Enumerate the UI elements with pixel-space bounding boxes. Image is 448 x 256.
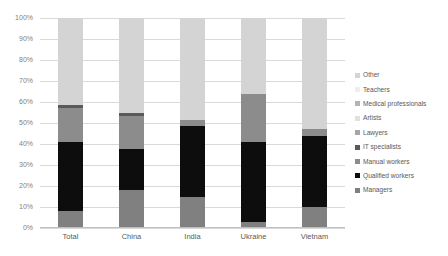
y-axis-tick-label: 10% bbox=[19, 203, 33, 211]
legend-item[interactable]: Artists bbox=[355, 111, 448, 125]
bar-segment[interactable] bbox=[58, 18, 82, 105]
bar-group[interactable] bbox=[302, 18, 326, 228]
bar-segment[interactable] bbox=[119, 116, 143, 150]
y-axis-labels: 0%10%20%30%40%50%60%70%80%90%100% bbox=[0, 18, 36, 228]
bar-segment[interactable] bbox=[302, 129, 326, 135]
legend-swatch-icon bbox=[355, 145, 360, 150]
legend-label: Artists bbox=[363, 114, 381, 122]
legend-item[interactable]: Medical professionals bbox=[355, 97, 448, 111]
legend-item[interactable]: Manual workers bbox=[355, 154, 448, 168]
y-axis-tick-label: 60% bbox=[19, 98, 33, 106]
x-axis-tick-label: Vietnam bbox=[301, 232, 328, 242]
x-axis-tick-label: Ukraine bbox=[241, 232, 267, 242]
bar-segment[interactable] bbox=[58, 142, 82, 211]
bars-layer bbox=[40, 18, 345, 228]
bar-group[interactable] bbox=[58, 18, 82, 228]
bar-segment[interactable] bbox=[241, 18, 265, 94]
legend-swatch-icon bbox=[355, 173, 360, 178]
bar-segment[interactable] bbox=[58, 108, 82, 142]
bar-stack bbox=[241, 18, 265, 228]
y-axis-tick-label: 50% bbox=[19, 119, 33, 127]
legend-label: Teachers bbox=[363, 86, 390, 94]
legend-swatch-icon bbox=[355, 130, 360, 135]
bar-stack bbox=[302, 18, 326, 228]
legend-item[interactable]: Qualified workers bbox=[355, 169, 448, 183]
bar-segment[interactable] bbox=[119, 113, 143, 116]
legend-swatch-icon bbox=[355, 188, 360, 193]
bar-stack bbox=[58, 18, 82, 228]
bar-stack bbox=[119, 18, 143, 228]
x-axis-line bbox=[40, 227, 345, 228]
x-axis-labels: TotalChinaIndiaUkraineVietnam bbox=[40, 232, 345, 248]
legend-swatch-icon bbox=[355, 87, 360, 92]
legend-label: Manual workers bbox=[363, 158, 410, 166]
y-axis-tick-label: 70% bbox=[19, 77, 33, 85]
bar-group[interactable] bbox=[119, 18, 143, 228]
legend-item[interactable]: Lawyers bbox=[355, 126, 448, 140]
x-axis-tick-label: China bbox=[122, 232, 142, 242]
bar-stack bbox=[180, 18, 204, 228]
y-axis-tick-label: 0% bbox=[23, 224, 33, 232]
legend-swatch-icon bbox=[355, 159, 360, 164]
legend-label: Managers bbox=[363, 186, 392, 194]
legend-item[interactable]: Teachers bbox=[355, 82, 448, 96]
legend-swatch-icon bbox=[355, 116, 360, 121]
legend-label: IT specialists bbox=[363, 143, 401, 151]
bar-segment[interactable] bbox=[180, 126, 204, 196]
bar-segment[interactable] bbox=[241, 142, 265, 222]
legend-item[interactable]: IT specialists bbox=[355, 140, 448, 154]
x-axis-tick-label: India bbox=[184, 232, 200, 242]
y-axis-tick-label: 20% bbox=[19, 182, 33, 190]
bar-segment[interactable] bbox=[58, 211, 82, 228]
bar-group[interactable] bbox=[180, 18, 204, 228]
x-axis-tick-label: Total bbox=[63, 232, 79, 242]
bar-segment[interactable] bbox=[119, 149, 143, 190]
bar-segment[interactable] bbox=[119, 190, 143, 228]
bar-segment[interactable] bbox=[180, 197, 204, 229]
stacked-bar-chart: 0%10%20%30%40%50%60%70%80%90%100% TotalC… bbox=[0, 0, 448, 256]
bar-segment[interactable] bbox=[241, 94, 265, 142]
bar-segment[interactable] bbox=[302, 136, 326, 207]
plot-area bbox=[40, 18, 345, 228]
gridline bbox=[40, 228, 345, 229]
legend-label: Other bbox=[363, 71, 380, 79]
bar-segment[interactable] bbox=[302, 18, 326, 129]
bar-segment[interactable] bbox=[119, 18, 143, 113]
legend-swatch-icon bbox=[355, 101, 360, 106]
bar-segment[interactable] bbox=[180, 120, 204, 126]
legend-label: Lawyers bbox=[363, 129, 388, 137]
y-axis-tick-label: 80% bbox=[19, 56, 33, 64]
legend-item[interactable]: Managers bbox=[355, 183, 448, 197]
bar-segment[interactable] bbox=[180, 18, 204, 120]
bar-group[interactable] bbox=[241, 18, 265, 228]
legend-swatch-icon bbox=[355, 73, 360, 78]
y-axis-tick-label: 90% bbox=[19, 35, 33, 43]
bar-segment[interactable] bbox=[58, 105, 82, 108]
y-axis-tick-label: 30% bbox=[19, 161, 33, 169]
chart-legend: OtherTeachersMedical professionalsArtist… bbox=[355, 68, 448, 198]
legend-label: Qualified workers bbox=[363, 172, 414, 180]
bar-segment[interactable] bbox=[302, 207, 326, 228]
legend-item[interactable]: Other bbox=[355, 68, 448, 82]
y-axis-tick-label: 100% bbox=[15, 14, 33, 22]
legend-label: Medical professionals bbox=[363, 100, 426, 108]
y-axis-tick-label: 40% bbox=[19, 140, 33, 148]
